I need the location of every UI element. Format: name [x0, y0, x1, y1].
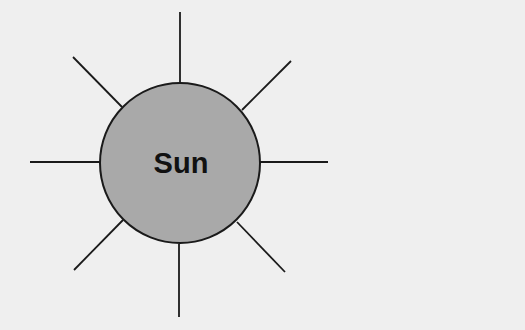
- sun-ray-top-right: [242, 61, 291, 110]
- sun-ray-top-left: [73, 57, 122, 107]
- sun-diagram: Sun: [0, 0, 525, 330]
- sun-ray-bottom-left: [74, 220, 123, 270]
- sun-label: Sun: [154, 147, 209, 179]
- sun-ray-bottom-right: [237, 222, 285, 272]
